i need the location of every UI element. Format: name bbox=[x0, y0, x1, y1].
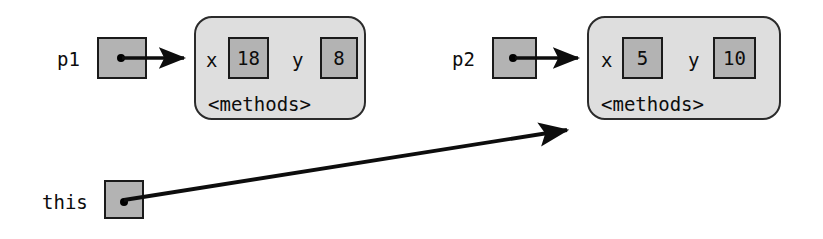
field-name-x-object-2: x bbox=[601, 51, 612, 70]
pointer-box-p1 bbox=[97, 37, 147, 79]
pointer-box-p2 bbox=[492, 37, 537, 79]
field-value-y-object-2: 10 bbox=[713, 37, 756, 79]
variable-label-p1: p1 bbox=[57, 50, 80, 69]
field-name-y-object-1: y bbox=[292, 51, 303, 70]
arrow-this-to-object-2 bbox=[124, 130, 567, 200]
field-value-y-object-1: 8 bbox=[320, 37, 358, 79]
methods-label-object-1: <methods> bbox=[208, 95, 311, 114]
field-name-x-object-1: x bbox=[206, 51, 217, 70]
field-name-y-object-2: y bbox=[688, 51, 699, 70]
pointer-box-this bbox=[104, 180, 144, 219]
field-value-x-object-2: 5 bbox=[622, 37, 663, 79]
pointer-dot-p1 bbox=[117, 54, 125, 62]
variable-label-this: this bbox=[42, 193, 88, 212]
variable-label-p2: p2 bbox=[452, 50, 475, 69]
pointer-dot-this bbox=[120, 198, 128, 206]
methods-label-object-2: <methods> bbox=[601, 95, 704, 114]
diagram-canvas: p1 x 18 y 8 <methods> p2 x 5 y 10 <metho… bbox=[0, 0, 823, 239]
field-value-x-object-1: 18 bbox=[228, 37, 269, 79]
pointer-dot-p2 bbox=[509, 54, 517, 62]
